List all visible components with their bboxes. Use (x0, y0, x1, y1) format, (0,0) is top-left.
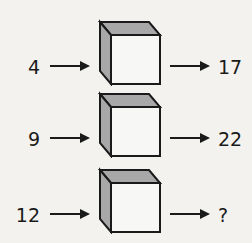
output-value: 22 (218, 128, 242, 150)
row-2: 9 22 (0, 86, 252, 156)
row-3: 12 ? (0, 162, 252, 232)
arrow-out-icon (170, 61, 210, 71)
cube-icon (100, 22, 160, 84)
arrow-in-icon (50, 209, 90, 219)
arrow-in-icon (50, 133, 90, 143)
machine-graphic (0, 162, 252, 234)
arrow-out-icon (170, 209, 210, 219)
machine-graphic (0, 14, 252, 86)
row-1: 4 17 (0, 14, 252, 84)
output-value: ? (218, 204, 228, 226)
machine-graphic (0, 86, 252, 158)
arrow-out-icon (170, 133, 210, 143)
output-value: 17 (218, 56, 242, 78)
arrow-in-icon (50, 61, 90, 71)
cube-icon (100, 94, 160, 156)
cube-icon (100, 170, 160, 232)
